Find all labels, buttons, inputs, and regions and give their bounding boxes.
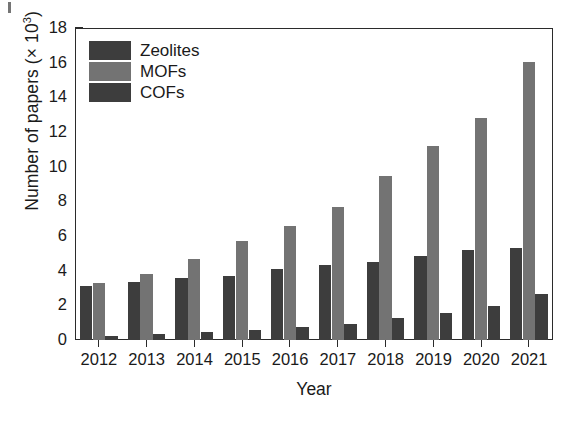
y-axis-title: Number of papers (× 103) [21, 0, 43, 261]
x-axis-major-tick [337, 340, 338, 347]
y-axis-tick-label: 6 [41, 227, 67, 244]
bar-mofs-2016 [284, 226, 296, 340]
bar-mofs-2017 [332, 207, 344, 340]
y-axis-tick-label: 18 [41, 19, 67, 36]
x-axis-major-tick [481, 340, 482, 347]
x-axis-major-tick [385, 340, 386, 347]
legend-swatch-zeolites [89, 41, 131, 60]
chart-figure: Number of papers (× 103) 024681012141618… [0, 0, 583, 423]
x-axis-major-tick [433, 340, 434, 347]
legend-item-zeolites: Zeolites [89, 40, 259, 61]
y-axis-title-exponent: 3 [21, 17, 33, 23]
y-axis-tick-label: 8 [41, 192, 67, 209]
bar-zeolites-2013 [128, 282, 140, 340]
scan-artifact-mark [8, 2, 11, 13]
y-axis-title-base: Number of papers (× 10 [22, 23, 42, 211]
bar-cofs-2015 [249, 330, 261, 340]
chart-legend: ZeolitesMOFsCOFs [89, 40, 259, 103]
bar-cofs-2012 [105, 336, 117, 340]
bar-zeolites-2021 [510, 248, 522, 340]
bar-cofs-2019 [440, 313, 452, 340]
bar-zeolites-2016 [271, 269, 283, 340]
bar-mofs-2019 [427, 146, 439, 340]
bar-zeolites-2012 [80, 286, 92, 340]
legend-label-cofs: COFs [140, 84, 184, 101]
bar-cofs-2017 [344, 324, 356, 340]
y-axis-tick-label: 10 [41, 158, 67, 175]
bar-zeolites-2017 [319, 265, 331, 340]
x-axis-major-tick [98, 340, 99, 347]
y-axis-tick-label: 12 [41, 123, 67, 140]
x-axis-major-tick [242, 340, 243, 347]
bar-cofs-2013 [153, 334, 165, 340]
bar-cofs-2016 [296, 327, 308, 340]
legend-swatch-cofs [89, 83, 131, 102]
bar-cofs-2018 [392, 318, 404, 340]
bar-mofs-2021 [523, 62, 535, 340]
x-axis-tick-label: 2021 [499, 350, 559, 369]
y-axis-tick-label: 14 [41, 88, 67, 105]
bar-zeolites-2019 [414, 256, 426, 340]
x-axis-title: Year [75, 379, 553, 400]
bar-zeolites-2018 [367, 262, 379, 340]
legend-label-zeolites: Zeolites [140, 42, 200, 59]
bar-cofs-2014 [201, 332, 213, 340]
bar-cofs-2020 [488, 306, 500, 340]
x-axis-major-tick [194, 340, 195, 347]
x-axis-major-tick [289, 340, 290, 347]
bar-mofs-2015 [236, 241, 248, 340]
legend-item-mofs: MOFs [89, 61, 259, 82]
y-axis-tick-label: 16 [41, 54, 67, 71]
bar-mofs-2020 [475, 118, 487, 340]
legend-swatch-mofs [89, 62, 131, 81]
y-axis-tick-label: 2 [41, 296, 67, 313]
bar-cofs-2021 [535, 294, 547, 340]
legend-item-cofs: COFs [89, 82, 259, 103]
bar-mofs-2012 [93, 283, 105, 340]
bar-zeolites-2014 [175, 278, 187, 340]
x-axis-major-tick [146, 340, 147, 347]
bar-zeolites-2020 [462, 250, 474, 340]
bar-mofs-2014 [188, 259, 200, 340]
bar-mofs-2013 [140, 274, 152, 340]
bar-mofs-2018 [379, 176, 391, 340]
y-axis-tick-label: 4 [41, 262, 67, 279]
bar-zeolites-2015 [223, 276, 235, 340]
x-axis-major-tick [528, 340, 529, 347]
y-axis-tick-label: 0 [41, 331, 67, 348]
legend-label-mofs: MOFs [140, 63, 186, 80]
y-axis-title-tail: ) [22, 11, 42, 17]
